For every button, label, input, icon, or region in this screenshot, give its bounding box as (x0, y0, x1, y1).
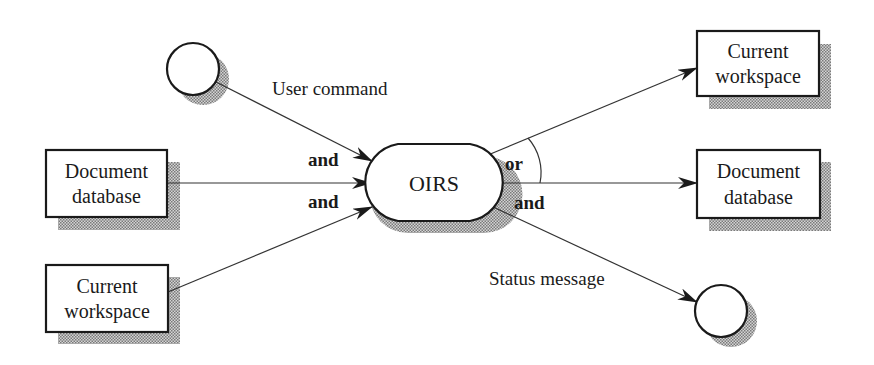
input-and-label-2: and (308, 191, 339, 212)
workspace-out-label-line1: Current (727, 40, 789, 62)
doc-db-in-label-line2: database (72, 185, 141, 207)
output-document-database: Document database (697, 150, 820, 218)
workspace-out-label-line2: workspace (715, 65, 801, 88)
user-command-label: User command (272, 78, 388, 99)
flow-current-workspace-out (488, 68, 697, 155)
status-message-label: Status message (489, 268, 605, 289)
output-user-terminal (695, 285, 747, 337)
input-user-terminal (167, 43, 219, 95)
workspace-in-label-line2: workspace (64, 300, 150, 323)
or-arc (528, 138, 541, 183)
user-terminal-out-circle (695, 285, 747, 337)
doc-db-out-label-line1: Document (717, 160, 801, 182)
flow-current-workspace-in (168, 207, 372, 292)
output-current-workspace: Current workspace (697, 31, 819, 96)
output-and-label: and (514, 192, 545, 213)
user-terminal-circle (167, 43, 219, 95)
input-current-workspace: Current workspace (46, 265, 168, 332)
output-or-label: or (505, 153, 524, 174)
process-oirs: OIRS (365, 144, 503, 221)
doc-db-out-label-line2: database (724, 186, 793, 208)
workspace-in-label-line1: Current (76, 275, 138, 297)
doc-db-in-label-line1: Document (65, 160, 149, 182)
input-and-label-1: and (308, 149, 339, 170)
oirs-dataflow-diagram: Document database Current workspace OIRS… (0, 0, 874, 365)
oirs-label: OIRS (409, 171, 459, 196)
input-document-database: Document database (46, 150, 167, 217)
